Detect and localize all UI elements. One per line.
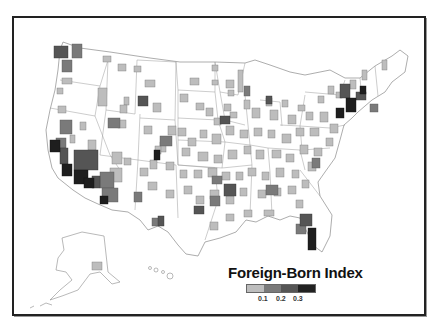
legend-tick-0-1: 0.1 bbox=[258, 295, 268, 302]
map-legend: Foreign-Born Index 0.1 0.2 0.3 bbox=[228, 264, 398, 281]
legend-bin-3 bbox=[281, 285, 298, 292]
alaska bbox=[30, 232, 120, 308]
legend-tick-0-3: 0.3 bbox=[293, 295, 303, 302]
contiguous-us bbox=[46, 42, 408, 256]
legend-color-scale bbox=[246, 284, 316, 293]
legend-title: Foreign-Born Index bbox=[228, 264, 398, 281]
hawaii bbox=[149, 267, 174, 280]
legend-bin-1 bbox=[247, 285, 264, 292]
legend-bin-2 bbox=[264, 285, 281, 292]
legend-tick-0-2: 0.2 bbox=[276, 295, 286, 302]
legend-bin-4 bbox=[298, 285, 315, 292]
alaska-metro bbox=[92, 262, 102, 270]
